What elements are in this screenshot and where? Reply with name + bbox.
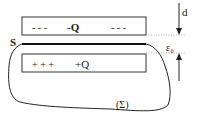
permittivity-label: ε₀ (166, 42, 174, 53)
top-plate-charge: -Q (67, 21, 80, 33)
distance-label: d (182, 6, 188, 18)
arrow-up-icon (176, 53, 182, 60)
bottom-plate-pluses: + + + (32, 59, 54, 70)
top-plate-dashes-left: - - - (32, 22, 47, 33)
arrow-down-icon (176, 28, 182, 35)
top-plate-dashes-right: - - - (111, 22, 126, 33)
bottom-plate-charge: +Q (75, 58, 89, 70)
surface-label: S (10, 36, 16, 48)
gaussian-surface-label: (Σ) (116, 99, 128, 111)
capacitor-diagram: - - - -Q - - - + + + +Q S (Σ) d ε₀ (0, 0, 208, 119)
